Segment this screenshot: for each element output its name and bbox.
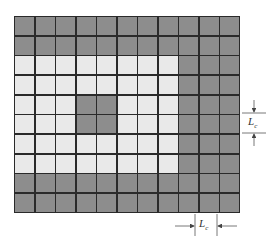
label-subscript: c <box>254 122 257 130</box>
vertical-dimension-label: Lc <box>248 115 257 130</box>
label-subscript: c <box>205 224 208 232</box>
horizontal-dimension-label: Lc <box>199 217 208 232</box>
dimension-annotations <box>0 0 276 245</box>
